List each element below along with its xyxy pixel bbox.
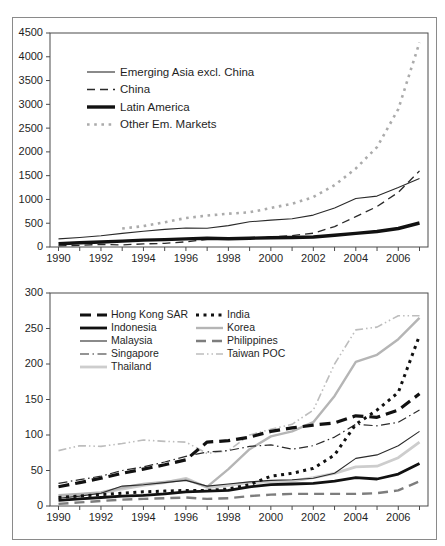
legend-label-china: China (120, 83, 151, 95)
x-tick-label: 1992 (89, 252, 113, 264)
legend-label-malaysia: Malaysia (111, 334, 153, 346)
y-tick-label: 500 (25, 217, 43, 229)
y-tick-label: 2000 (19, 145, 43, 157)
x-tick-label: 2000 (259, 252, 283, 264)
x-tick-label: 1996 (174, 511, 198, 523)
y-tick-label: 4500 (19, 26, 43, 38)
y-tick-label: 1000 (19, 193, 43, 205)
y-tick-label: 0 (37, 240, 43, 252)
legend-label-korea: Korea (227, 321, 255, 333)
legend-label-emerging-asia-excl-china: Emerging Asia excl. China (120, 66, 255, 78)
x-tick-label: 1998 (216, 252, 240, 264)
legend-label-indonesia: Indonesia (111, 321, 157, 333)
x-tick-label: 1998 (216, 511, 240, 523)
y-tick-label: 300 (25, 286, 43, 298)
series-line-singapore (59, 410, 420, 483)
y-tick-label: 1500 (19, 169, 43, 181)
y-tick-label: 4000 (19, 50, 43, 62)
y-tick-label: 0 (37, 499, 43, 511)
y-tick-label: 2500 (19, 122, 43, 134)
y-tick-label: 3000 (19, 98, 43, 110)
x-tick-label: 2006 (386, 252, 410, 264)
legend-label-thailand: Thailand (111, 360, 151, 372)
top-line-chart: 0500100015002000250030003500400045001990… (0, 0, 445, 273)
legend-label-latin-america: Latin America (120, 101, 190, 113)
x-tick-label: 1990 (46, 511, 70, 523)
y-tick-label: 3500 (19, 74, 43, 86)
x-tick-label: 2002 (301, 252, 325, 264)
x-tick-label: 2006 (386, 511, 410, 523)
legend-label-hong-kong-sar: Hong Kong SAR (111, 308, 188, 320)
series-line-emerging-asia-excl-china (59, 179, 420, 239)
legend-label-taiwan-poc: Taiwan POC (227, 347, 286, 359)
x-tick-label: 1990 (46, 252, 70, 264)
y-tick-label: 150 (25, 393, 43, 405)
legend-label-philippines: Philippines (227, 334, 278, 346)
legend-label-india: India (227, 308, 250, 320)
y-tick-label: 250 (25, 322, 43, 334)
y-tick-label: 200 (25, 357, 43, 369)
bottom-line-chart: 0501001502002503001990199219941996199820… (0, 273, 445, 546)
legend-label-singapore: Singapore (111, 347, 159, 359)
y-tick-label: 50 (31, 464, 43, 476)
x-tick-label: 1996 (174, 252, 198, 264)
y-tick-label: 100 (25, 428, 43, 440)
x-tick-label: 2002 (301, 511, 325, 523)
x-tick-label: 1994 (131, 252, 155, 264)
legend-label-other-em-markets: Other Em. Markets (120, 118, 217, 130)
x-tick-label: 1992 (89, 511, 113, 523)
x-tick-label: 1994 (131, 511, 155, 523)
figure-page: 0500100015002000250030003500400045001990… (0, 0, 445, 546)
x-tick-label: 2004 (344, 511, 368, 523)
x-tick-label: 2000 (259, 511, 283, 523)
x-tick-label: 2004 (344, 252, 368, 264)
series-line-latin-america (59, 223, 420, 244)
